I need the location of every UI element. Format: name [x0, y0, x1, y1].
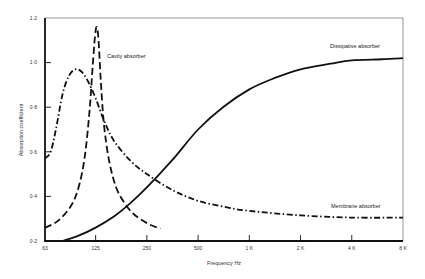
- x-tick-label: 500: [194, 245, 203, 251]
- annotation-dissipative-absorber: Dissipative absorber: [330, 43, 380, 49]
- y-axis: 0·20·40·60·81·01·2: [30, 15, 51, 244]
- y-tick-label: 0·2: [30, 238, 37, 244]
- series-dissipative-absorber: [63, 58, 403, 241]
- x-tick-label: 1 K: [246, 245, 254, 251]
- y-tick-label: 0·4: [30, 193, 37, 199]
- x-axis: 631252505001 K2 K4 K8 K: [42, 235, 407, 251]
- y-tick-label: 1·0: [30, 59, 37, 65]
- x-tick-label: 8 K: [399, 245, 407, 251]
- y-tick-label: 1·2: [30, 15, 37, 21]
- x-axis-label: Frequency Hz: [207, 260, 241, 266]
- x-tick-label: 2 K: [297, 245, 305, 251]
- series-membrane-absorber: [45, 69, 403, 218]
- absorption-chart: 0·20·40·60·81·01·2 631252505001 K2 K4 K8…: [0, 0, 425, 279]
- x-tick-label: 4 K: [348, 245, 356, 251]
- y-axis-label: Absorption coefficient: [18, 103, 24, 156]
- x-tick-label: 250: [143, 245, 152, 251]
- x-tick-label: 125: [91, 245, 100, 251]
- annotation-cavity-absorber: Cavity absorber: [107, 53, 146, 59]
- annotations: Cavity absorberDissipative absorberMembr…: [107, 43, 381, 209]
- y-tick-label: 0·8: [30, 104, 37, 110]
- y-tick-label: 0·6: [30, 149, 37, 155]
- annotation-membrane-absorber: Membrane absorber: [331, 203, 381, 209]
- x-tick-label: 63: [42, 245, 48, 251]
